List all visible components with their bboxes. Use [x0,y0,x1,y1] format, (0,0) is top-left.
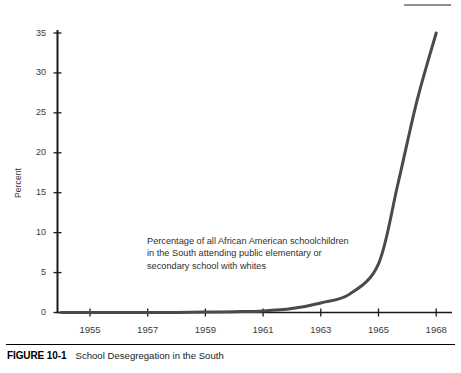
y-tick-label: 20 [22,148,46,157]
y-tick-label: 25 [22,108,46,117]
y-tick-label: 10 [22,228,46,237]
chart-svg [0,0,461,340]
x-tick-label: 1965 [357,325,401,335]
annotation-line-1: Percentage of all African American schoo… [147,235,379,247]
x-tick-label: 1963 [299,325,343,335]
figure-title: School Desegregation in the South [75,350,223,361]
annotation-line-2: in the South attending public elementary… [147,247,379,259]
x-tick-label: 1955 [68,325,112,335]
y-axis-title: Percent [13,153,23,213]
y-tick-label: 15 [22,188,46,197]
caption-divider [6,344,455,345]
chart-annotation: Percentage of all African American schoo… [147,235,379,272]
chart-plot-area: Percent 05101520253035 19551957195919611… [0,0,461,340]
figure-number: FIGURE 10-1 [7,350,66,361]
x-tick-label: 1959 [183,325,227,335]
x-tick-label: 1961 [241,325,285,335]
y-tick-label: 0 [22,308,46,317]
figure-caption: FIGURE 10-1School Desegregation in the S… [7,350,224,361]
y-tick-label: 30 [22,68,46,77]
annotation-line-3: secondary school with whites [147,260,379,272]
y-tick-label: 5 [22,268,46,277]
figure-container: Percent 05101520253035 19551957195919611… [0,0,461,373]
y-tick-label: 35 [22,29,46,38]
x-tick-label: 1968 [414,325,458,335]
x-tick-label: 1957 [126,325,170,335]
